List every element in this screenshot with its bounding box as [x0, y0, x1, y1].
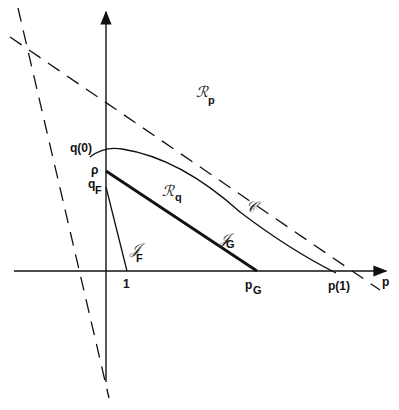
svg-text:p: p	[245, 278, 252, 292]
label-Rp: ℛ p	[196, 83, 215, 106]
label-Rq: ℛ q	[162, 182, 182, 203]
label-qF: q F	[88, 177, 102, 196]
label-pG: p G	[245, 278, 262, 296]
svg-text:G: G	[226, 238, 235, 250]
svg-text:q: q	[175, 191, 182, 203]
svg-text:ℛ: ℛ	[162, 182, 175, 200]
label-rho: ρ	[91, 163, 98, 177]
curve-C	[90, 148, 336, 273]
dashed-line-steep	[18, 8, 109, 398]
svg-text:G: G	[253, 284, 262, 296]
dashed-line-shallow	[10, 37, 380, 290]
line-JF	[106, 187, 127, 271]
label-p1: p(1)	[328, 279, 350, 293]
label-x-axis-p: p	[382, 275, 389, 289]
label-JF: 𝒥 F	[129, 240, 146, 264]
svg-text:F: F	[136, 252, 143, 264]
svg-text:F: F	[95, 184, 102, 196]
label-q0: q(0)	[70, 141, 92, 155]
line-JG	[106, 171, 257, 271]
label-one: 1	[123, 277, 130, 291]
diagram-canvas: q(0) ρ q F 1 p G p(1) p ℛ p ℛ q 𝒥 F 𝒥 G …	[0, 0, 399, 410]
label-JG: 𝒥 G	[218, 230, 235, 250]
svg-text:p: p	[208, 94, 215, 106]
